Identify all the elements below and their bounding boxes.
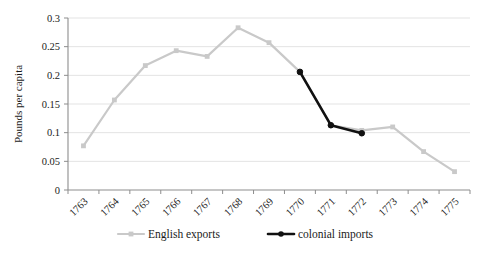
chart-container: 00.050.10.150.20.250.3 17631764176517661… (0, 0, 483, 253)
y-axis-tick-labels: 00.050.10.150.20.250.3 (42, 13, 60, 196)
x-tick-label: 1766 (160, 196, 183, 219)
x-tick-label: 1767 (191, 196, 214, 219)
x-axis-ticks (68, 190, 470, 194)
y-tick-label: 0.15 (42, 99, 60, 110)
x-tick-label: 1768 (222, 196, 245, 219)
x-tick-label: 1764 (98, 195, 121, 218)
y-tick-label: 0.25 (42, 41, 60, 52)
series-colonial-imports (297, 69, 364, 136)
data-point (112, 98, 117, 103)
data-point (421, 149, 426, 154)
data-point (205, 54, 210, 59)
data-point (143, 63, 148, 68)
data-point (328, 122, 334, 128)
x-tick-label: 1765 (129, 196, 152, 219)
legend-swatch-marker (278, 231, 284, 237)
data-point (174, 48, 179, 53)
y-tick-label: 0.05 (42, 156, 60, 167)
data-point (297, 69, 303, 75)
x-tick-label: 1774 (407, 195, 430, 218)
series-line (83, 28, 454, 172)
data-series-layer (81, 25, 457, 174)
legend-item-colonial-imports[interactable]: colonial imports (268, 228, 374, 241)
data-point (359, 130, 365, 136)
y-axis-title: Pounds per capita (12, 65, 24, 143)
chart-legend: English exportscolonial imports (118, 228, 374, 241)
legend-label: English exports (148, 228, 220, 241)
data-point (267, 40, 272, 45)
x-tick-label: 1771 (315, 196, 338, 219)
series-english-exports (81, 25, 457, 174)
data-point (236, 25, 241, 30)
data-point (390, 125, 395, 130)
legend-label: colonial imports (298, 228, 374, 241)
legend-swatch-marker (129, 232, 134, 237)
legend-item-english-exports[interactable]: English exports (118, 228, 220, 241)
y-tick-label: 0.1 (47, 127, 60, 138)
x-tick-label: 1770 (284, 196, 307, 219)
y-tick-label: 0.3 (47, 13, 60, 24)
line-chart: 00.050.10.150.20.250.3 17631764176517661… (0, 0, 483, 253)
x-tick-label: 1772 (346, 196, 369, 219)
x-axis-tick-labels: 1763176417651766176717681769177017711772… (67, 195, 461, 218)
x-tick-label: 1775 (438, 196, 461, 219)
x-tick-label: 1773 (376, 196, 399, 219)
data-point (452, 169, 457, 174)
y-tick-label: 0 (55, 185, 60, 196)
x-tick-label: 1769 (253, 196, 276, 219)
y-axis-ticks (64, 18, 68, 190)
x-tick-label: 1763 (67, 196, 90, 219)
y-tick-label: 0.2 (47, 70, 60, 81)
data-point (81, 143, 86, 148)
